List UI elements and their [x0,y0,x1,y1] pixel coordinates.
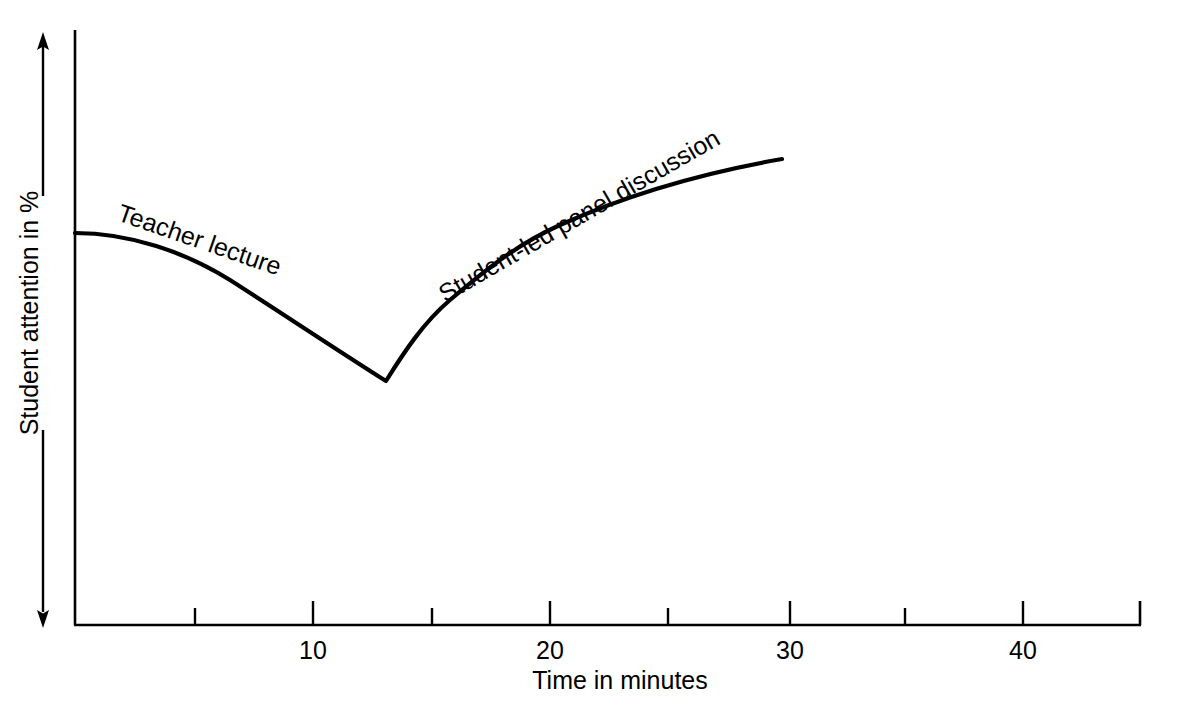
attention-curve-figure: Student attention in % 10 20 30 40 Time … [0,0,1196,720]
x-tick-label-20: 20 [536,636,564,664]
chart-canvas: Student attention in % 10 20 30 40 Time … [0,0,1196,720]
x-tick-label-40: 40 [1009,636,1037,664]
figure-background [0,0,1196,720]
x-tick-label-30: 30 [776,636,804,664]
x-axis-title: Time in minutes [532,666,708,694]
y-axis-title: Student attention in % [15,191,43,436]
x-tick-label-10: 10 [299,636,327,664]
